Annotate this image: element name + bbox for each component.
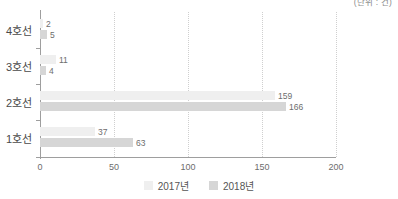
- bar-value-line2-2018: 166: [289, 102, 303, 112]
- y-axis-label-line4: 4호선: [6, 22, 32, 38]
- bar-value-line3-2017: 11: [59, 55, 68, 65]
- x-axis-tick-label-0: 0: [37, 162, 42, 172]
- legend-label-2017: 2017년: [158, 178, 189, 193]
- bar-value-line1-2017: 37: [98, 127, 107, 137]
- x-axis-tick-label-200: 200: [328, 162, 343, 172]
- bar-value-line3-2018: 4: [49, 66, 54, 76]
- bar-value-line4-2018: 5: [50, 30, 55, 40]
- y-axis-label-line3: 3호선: [6, 58, 32, 74]
- plot-area: 4호선 2 5 3호선 11 4 2호선 159 166: [40, 12, 336, 157]
- category-group-line3: 3호선 11 4: [40, 48, 336, 84]
- category-group-line1: 1호선 37 63: [40, 120, 336, 156]
- bar-line2-2017: 159: [40, 91, 275, 100]
- x-axis-tick-label-150: 150: [254, 162, 269, 172]
- legend-item-2018: 2018년: [209, 178, 254, 193]
- bar-line3-2018: 4: [40, 66, 46, 75]
- bar-line4-2017: 2: [40, 19, 43, 28]
- legend-label-2018: 2018년: [223, 178, 254, 193]
- y-axis-label-line2: 2호선: [6, 94, 32, 110]
- gridline-200: [336, 12, 337, 157]
- y-axis-label-line1: 1호선: [6, 130, 32, 146]
- bar-line4-2018: 5: [40, 30, 47, 39]
- bar-chart: (단위 : 건) 4호선 2 5 3호선 11: [0, 0, 398, 199]
- y-axis-tick: [36, 157, 40, 158]
- legend-swatch-2018: [209, 181, 218, 190]
- legend-item-2017: 2017년: [144, 178, 189, 193]
- bar-line1-2018: 63: [40, 138, 133, 147]
- bar-line2-2018: 166: [40, 102, 286, 111]
- category-group-line2: 2호선 159 166: [40, 84, 336, 120]
- x-axis-line: [40, 157, 336, 158]
- bar-line1-2017: 37: [40, 127, 95, 136]
- bar-value-line1-2018: 63: [136, 138, 145, 148]
- bar-line3-2017: 11: [40, 55, 56, 64]
- bar-value-line2-2017: 159: [278, 91, 292, 101]
- unit-caption: (단위 : 건): [354, 0, 392, 7]
- legend-swatch-2017: [144, 181, 153, 190]
- x-axis-tick-label-100: 100: [180, 162, 195, 172]
- chart-legend: 2017년 2018년: [0, 178, 398, 193]
- bar-value-line4-2017: 2: [46, 19, 51, 29]
- x-axis-tick-label-50: 50: [109, 162, 119, 172]
- category-group-line4: 4호선 2 5: [40, 12, 336, 48]
